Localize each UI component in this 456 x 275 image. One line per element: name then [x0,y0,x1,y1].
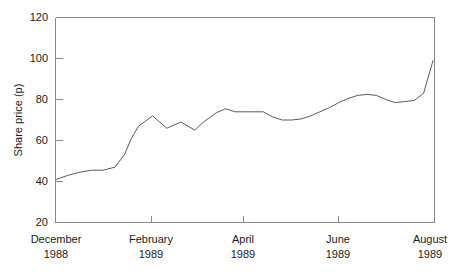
y-axis-title: Share price (p) [12,84,24,157]
x-tick-label-year-february: 1989 [139,248,163,260]
y-tick-label-60: 60 [36,134,48,146]
x-tick-label-month-february: February [129,233,174,245]
y-tick-label-40: 40 [36,175,48,187]
line-chart: 120 100 80 60 40 20 Share price (p) Dece… [0,0,456,275]
y-tick-label-20: 20 [36,216,48,228]
x-tick-label-month-august: August [413,233,447,245]
chart-figure: 120 100 80 60 40 20 Share price (p) Dece… [0,0,456,275]
x-tick-label-month-june: June [326,233,350,245]
y-tick-label-80: 80 [36,93,48,105]
data-line-share-price [56,61,433,180]
x-tick-label-year-april: 1989 [231,248,255,260]
x-tick-label-month-december: December [31,233,82,245]
y-tick-label-120: 120 [30,11,48,23]
x-tick-label-year-december: 1988 [44,248,68,260]
x-tick-label-month-april: April [232,233,254,245]
y-tick-label-100: 100 [30,52,48,64]
x-tick-label-year-august: 1989 [418,248,442,260]
x-tick-label-year-june: 1989 [326,248,350,260]
